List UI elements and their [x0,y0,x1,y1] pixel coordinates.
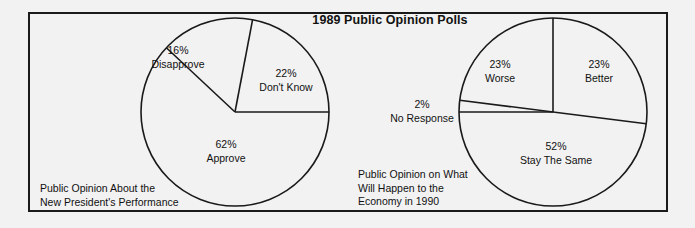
pie-divider-dontknow-disapprove [235,19,253,112]
slice-label-dontknow: 22% Don't Know [238,67,334,94]
caption-line-1: Public Opinion on What [358,168,468,182]
slice-label-disapprove: 16% Disapprove [130,44,226,71]
slice-value-better: 23% [561,58,637,72]
caption-line-2: New President's Performance [40,196,179,210]
slice-value-staysame: 52% [494,140,618,154]
slice-name-dontknow: Don't Know [238,81,334,95]
caption-line-1: Public Opinion About the [40,182,179,196]
slice-label-approve: 62% Approve [178,138,274,165]
pie-divider-better-staysame [553,112,646,124]
caption-line-2: Will Happen to the [358,182,468,196]
slice-value-approve: 62% [178,138,274,152]
slice-label-staysame: 52% Stay The Same [494,140,618,167]
slice-label-worse: 23% Worse [462,58,538,85]
figure-canvas: 1989 Public Opinion Polls 16% Disapprove… [0,0,695,228]
pie-divider-noresponse-worse [460,100,553,112]
slice-value-worse: 23% [462,58,538,72]
slice-name-better: Better [561,72,637,86]
caption-economy-chart: Public Opinion on What Will Happen to th… [358,168,468,209]
slice-value-dontknow: 22% [238,67,334,81]
caption-line-3: Economy in 1990 [358,195,468,209]
slice-name-noresponse: No Response [374,112,470,126]
pie-chart-economy [453,12,653,212]
slice-label-noresponse: 2% No Response [374,98,470,125]
slice-value-noresponse: 2% [374,98,470,112]
slice-name-worse: Worse [462,72,538,86]
slice-name-disapprove: Disapprove [130,58,226,72]
slice-name-staysame: Stay The Same [494,154,618,168]
slice-label-better: 23% Better [561,58,637,85]
slice-name-approve: Approve [178,152,274,166]
slice-value-disapprove: 16% [130,44,226,58]
caption-president-chart: Public Opinion About the New President's… [40,182,179,209]
